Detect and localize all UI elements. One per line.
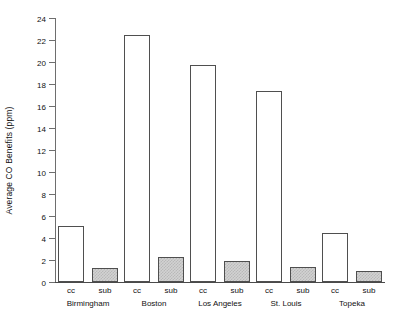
bar-los-angeles-cc <box>190 65 216 282</box>
y-axis-tick-label: 24 <box>37 14 46 23</box>
bar-birmingham-sub <box>92 268 118 282</box>
bar-label-cc: cc <box>265 286 273 295</box>
group-label-boston: Boston <box>142 299 167 308</box>
y-axis-tick-label: 10 <box>37 168 46 177</box>
y-axis-tick: 14 <box>49 128 55 129</box>
bar-label-cc: cc <box>67 286 75 295</box>
group-label-st-louis: St. Louis <box>270 299 301 308</box>
y-axis-tick: 4 <box>49 238 55 239</box>
bar-st-louis-cc <box>256 91 282 282</box>
y-axis-tick-label: 14 <box>37 124 46 133</box>
y-axis-tick-label: 8 <box>42 190 46 199</box>
bar-los-angeles-sub <box>224 261 250 282</box>
y-axis-line <box>55 18 56 282</box>
y-axis-tick: 22 <box>49 40 55 41</box>
bar-label-sub: sub <box>363 286 376 295</box>
y-axis-tick: 0 <box>49 282 55 283</box>
y-axis-tick-label: 12 <box>37 146 46 155</box>
bar-label-sub: sub <box>231 286 244 295</box>
bar-label-cc: cc <box>199 286 207 295</box>
bar-label-sub: sub <box>297 286 310 295</box>
y-axis-tick-label: 16 <box>37 102 46 111</box>
y-axis-tick: 6 <box>49 216 55 217</box>
y-axis-tick: 8 <box>49 194 55 195</box>
bar-birmingham-cc <box>58 226 84 282</box>
y-axis-tick-label: 20 <box>37 58 46 67</box>
bar-chart: Average CO Benefits (ppm) 02468101214161… <box>0 0 409 321</box>
y-axis-title: Average CO Benefits (ppm) <box>0 0 18 321</box>
y-axis-tick-label: 4 <box>42 234 46 243</box>
bar-label-sub: sub <box>165 286 178 295</box>
bar-topeka-cc <box>322 233 348 283</box>
bar-boston-sub <box>158 257 184 282</box>
y-axis-tick-label: 6 <box>42 212 46 221</box>
y-axis-tick: 2 <box>49 260 55 261</box>
bar-boston-cc <box>124 35 150 283</box>
y-axis-tick: 24 <box>49 18 55 19</box>
y-axis-tick-label: 2 <box>42 256 46 265</box>
bar-label-cc: cc <box>133 286 141 295</box>
plot-area: 024681012141618202224 ccsubBirminghamccs… <box>55 18 385 282</box>
y-axis-tick-label: 22 <box>37 36 46 45</box>
y-axis-tick: 10 <box>49 172 55 173</box>
bar-label-sub: sub <box>99 286 112 295</box>
y-axis-tick-label: 18 <box>37 80 46 89</box>
bar-st-louis-sub <box>290 267 316 282</box>
y-axis-tick: 12 <box>49 150 55 151</box>
y-axis-tick: 18 <box>49 84 55 85</box>
group-label-topeka: Topeka <box>339 299 365 308</box>
bar-topeka-sub <box>356 271 382 282</box>
y-axis-tick: 20 <box>49 62 55 63</box>
y-axis-tick: 16 <box>49 106 55 107</box>
x-axis-line <box>55 282 385 283</box>
group-label-birmingham: Birmingham <box>67 299 110 308</box>
bar-label-cc: cc <box>331 286 339 295</box>
y-axis-tick-label: 0 <box>42 278 46 287</box>
group-label-los-angeles: Los Angeles <box>198 299 242 308</box>
